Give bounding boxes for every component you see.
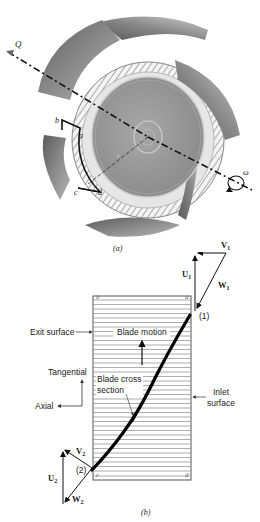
corner-a-label: a (185, 294, 189, 301)
radius-label: r (117, 153, 120, 160)
u1-label: U1 (182, 270, 191, 280)
fan-impeller-illustration (0, 0, 260, 260)
point-a-label: a (79, 132, 83, 140)
corner-d-label: d (185, 472, 189, 479)
v2-label: V2 (76, 447, 85, 457)
blade-cross-section-label-line1: Blade cross (97, 375, 141, 384)
inlet-surface-label-line1: Inlet (213, 388, 229, 397)
w1-label: W1 (218, 281, 230, 291)
flow-rate-label: Q (15, 40, 22, 49)
corner-c-label: c (96, 472, 99, 479)
exit-surface-label: Exit surface (30, 328, 74, 337)
point-b-label: b (55, 117, 59, 125)
v1-label: V1 (221, 241, 230, 251)
point-1-label: (1) (199, 312, 209, 321)
tangential-label: Tangential (48, 368, 87, 377)
figure: Q ω b a c d r (a) (0, 0, 260, 522)
inlet-surface-label-line2: surface (207, 399, 235, 408)
point-2-label: (2) (76, 466, 86, 475)
w2-label: W2 (72, 495, 84, 505)
point-d-label: d (98, 189, 102, 197)
u2-label: U2 (48, 474, 57, 484)
rotation-direction-icon (228, 176, 244, 190)
angular-velocity-label: ω (243, 169, 249, 177)
axial-label: Axial (35, 402, 53, 411)
blade-cross-section-label-line2: section (97, 386, 124, 395)
caption-b: (b) (141, 509, 150, 517)
point-c-label: c (74, 189, 78, 197)
blade-bottom (85, 218, 180, 237)
blade-motion-label: Blade motion (117, 328, 167, 337)
corner-b-label: b (96, 294, 100, 301)
blade-left (43, 135, 70, 200)
